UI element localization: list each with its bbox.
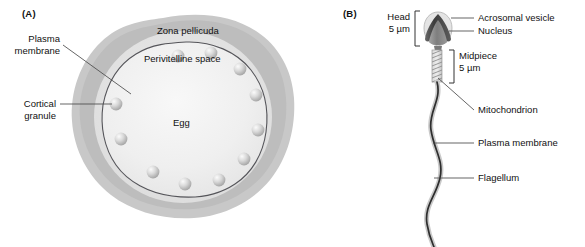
panel-b-graphics — [0, 0, 585, 247]
bracket-head — [415, 11, 420, 46]
midpiece-shape — [432, 50, 442, 82]
bracket-midpiece — [449, 50, 454, 83]
leader-mitochondrion — [438, 78, 474, 110]
figure-container: (A) Zona pellicuda Perivitelline space E… — [0, 0, 585, 247]
label-nucleus: Nucleus — [478, 25, 512, 37]
label-acrosomal-vesicle: Acrosomal vesicle — [478, 12, 555, 24]
label-head: Head 5 µm — [368, 11, 410, 34]
label-flagellum: Flagellum — [478, 172, 519, 184]
label-midpiece: Midpiece 5 µm — [459, 50, 497, 73]
panel-b-tag: (B) — [343, 8, 357, 19]
label-mitochondrion: Mitochondrion — [478, 104, 538, 116]
label-plasma-membrane-b: Plasma membrane — [478, 137, 558, 149]
